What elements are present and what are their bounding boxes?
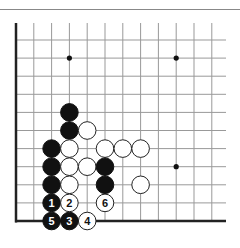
stone-circle [96,140,114,158]
stone-circle [43,140,61,158]
white-stone [132,140,150,158]
move-number-label: 3 [66,215,72,227]
black-stone: 1 [43,194,61,212]
go-board: 126534 [0,0,240,248]
stone-circle [132,176,150,194]
stone-circle [114,140,132,158]
black-stone [43,158,61,176]
stone-circle [78,158,96,176]
white-stone: 2 [61,194,79,212]
black-stone [96,176,114,194]
stone-circle [61,176,79,194]
stone-circle [61,140,79,158]
white-stone [61,140,79,158]
white-stone [78,158,96,176]
stone-circle [43,176,61,194]
star-point-icon [174,56,179,61]
star-point-icon [174,164,179,169]
white-stone: 6 [96,194,114,212]
stone-circle [43,158,61,176]
stone-circle [61,158,79,176]
stone-circle [132,140,150,158]
stone-circle [61,122,79,140]
star-point-icon [67,56,72,61]
move-number-label: 1 [49,197,55,209]
white-stone [96,140,114,158]
move-number-label: 4 [84,215,91,227]
stone-circle [78,122,96,140]
black-stone [61,104,79,122]
white-stone [61,176,79,194]
black-stone [96,158,114,176]
white-stone [132,176,150,194]
white-stone: 4 [78,212,96,230]
stone-circle [61,104,79,122]
move-number-label: 2 [66,197,72,209]
black-stone [43,176,61,194]
stone-circle [96,176,114,194]
black-stone: 3 [61,212,79,230]
white-stone [78,122,96,140]
black-stone: 5 [43,212,61,230]
move-number-label: 6 [102,197,108,209]
move-number-label: 5 [49,215,55,227]
white-stone [114,140,132,158]
stone-circle [96,158,114,176]
black-stone [43,140,61,158]
white-stone [61,158,79,176]
black-stone [61,122,79,140]
